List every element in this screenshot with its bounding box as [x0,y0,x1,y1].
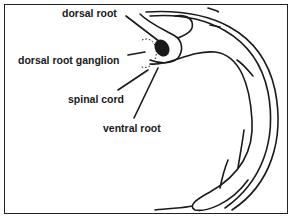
outer-body-curve [146,12,278,210]
lower-tail [155,206,192,210]
ganglion-body [151,37,172,60]
dash-mark [208,8,218,12]
leader-ventral-root [134,68,158,118]
leader-spinal-cord [118,70,148,90]
leader-ganglion [128,52,145,55]
leader-dorsal-root [126,16,160,42]
branch-2 [220,160,228,188]
spinal-nerve [150,52,252,210]
label-spinal-cord: spinal cord [68,93,124,105]
dorsal-root-upper-loop [175,16,192,38]
nerve-diagram [0,0,292,220]
label-ventral-root: ventral root [103,122,161,134]
label-dorsal-root-ganglion: dorsal root ganglion [18,54,120,66]
dash-mark-2 [210,25,220,27]
label-dorsal-root: dorsal root [62,7,117,19]
